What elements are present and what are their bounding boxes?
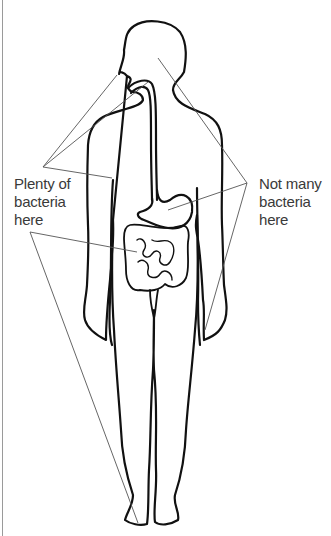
esophagus-inner bbox=[131, 87, 152, 200]
pointer-stomach bbox=[168, 183, 247, 210]
label-line: Not many bbox=[259, 175, 322, 193]
pointer-nasal bbox=[158, 58, 247, 183]
label-line: Plenty of bbox=[14, 175, 71, 193]
stomach bbox=[138, 190, 192, 228]
inner-arm-right bbox=[197, 188, 200, 345]
human-body-diagram bbox=[0, 0, 331, 536]
rectum bbox=[150, 290, 158, 318]
diagram-frame: Plenty of bacteria here Not many bacteri… bbox=[0, 0, 331, 536]
label-line: bacteria bbox=[259, 193, 322, 211]
pointer-mouth bbox=[43, 75, 117, 167]
pointer-intestine bbox=[30, 232, 137, 252]
pointer-throat bbox=[43, 82, 148, 167]
label-line: bacteria bbox=[14, 193, 71, 211]
label-line: here bbox=[14, 211, 71, 229]
label-plenty-of-bacteria: Plenty of bacteria here bbox=[14, 175, 71, 229]
label-line: here bbox=[259, 211, 322, 229]
small-intestine bbox=[137, 239, 174, 280]
large-intestine bbox=[124, 224, 189, 290]
label-not-many-bacteria: Not many bacteria here bbox=[259, 175, 322, 229]
pointer-foot bbox=[30, 232, 138, 523]
